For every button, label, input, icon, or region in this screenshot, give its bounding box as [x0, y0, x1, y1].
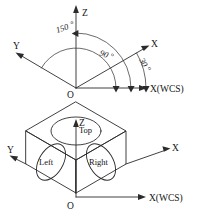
axis-y-bottom [10, 156, 27, 164]
bottom-diagram-group: Top Left Right Z X Y X(WCS) O [7, 102, 183, 211]
angle-label-90: 90 o [98, 47, 115, 62]
arc-90-group [72, 30, 135, 93]
angle-label-30-degree: o [147, 65, 154, 70]
axis-x-bottom [126, 146, 171, 164]
origin-label-top: O [67, 90, 74, 100]
axis-label-x-bottom: X [172, 143, 179, 153]
face-label-left: Left [39, 157, 54, 167]
angle-label-90-value: 90 [98, 48, 110, 61]
angle-label-90-degree: o [110, 51, 115, 58]
angle-label-150-value: 150 [55, 21, 71, 35]
axis-xwcs-top [76, 85, 147, 91]
axis-xwcs-bottom [76, 194, 146, 200]
face-label-right: Right [89, 157, 109, 167]
axis-label-z-top: Z [82, 8, 88, 18]
angle-label-150-degree: o [69, 19, 74, 26]
figure-root: Z X Y X(WCS) O 150 o 90 o 30 o [0, 0, 203, 215]
axis-label-x-top: X [151, 39, 158, 49]
angle-label-150: 150 o [54, 19, 75, 35]
origin-label-bottom: O [67, 201, 74, 211]
top-diagram-group: Z X Y X(WCS) O 150 o 90 o 30 o [13, 5, 184, 100]
axis-z-top [73, 5, 79, 88]
axis-label-xwcs-bottom: X(WCS) [149, 193, 183, 204]
axis-label-z-bottom: Z [79, 118, 85, 128]
technical-diagram-svg: Z X Y X(WCS) O 150 o 90 o 30 o [0, 0, 203, 215]
axis-y-top [16, 52, 77, 88]
axis-label-xwcs-top: X(WCS) [150, 84, 184, 95]
axis-label-y-top: Y [13, 41, 20, 51]
axis-label-y-bottom: Y [7, 145, 14, 155]
